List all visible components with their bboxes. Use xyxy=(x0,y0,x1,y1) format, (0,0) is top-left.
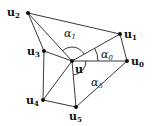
vertex-u3 xyxy=(42,49,46,53)
edge-u2-u1 xyxy=(28,13,120,34)
label-u2: u2 xyxy=(7,6,20,20)
label-u4: u4 xyxy=(26,94,39,108)
diagram-canvas: u u0 u1 u2 u3 u4 u5 α0 α1 α5 xyxy=(0,0,152,126)
edge-u4-u3 xyxy=(43,51,44,100)
vertex-u xyxy=(70,59,74,63)
label-u3: u3 xyxy=(27,45,40,59)
label-alpha0: α0 xyxy=(101,48,113,62)
spoke-u4 xyxy=(43,61,72,100)
label-alpha1: α1 xyxy=(64,27,76,41)
vertex-u5 xyxy=(74,105,78,109)
label-u: u xyxy=(75,63,83,76)
arc-alpha1 xyxy=(63,47,85,54)
vertex-u2 xyxy=(26,11,30,15)
label-alpha5: α5 xyxy=(91,76,103,90)
label-u5: u5 xyxy=(69,110,82,124)
arc-alpha0 xyxy=(95,48,98,61)
edge-u5-u4 xyxy=(43,100,76,107)
vertex-dots xyxy=(26,11,129,109)
vertex-u0 xyxy=(125,59,129,63)
vertex-u1 xyxy=(118,32,122,36)
vertex-u4 xyxy=(41,98,45,102)
label-u0: u0 xyxy=(131,55,144,69)
label-u1: u1 xyxy=(124,28,137,42)
